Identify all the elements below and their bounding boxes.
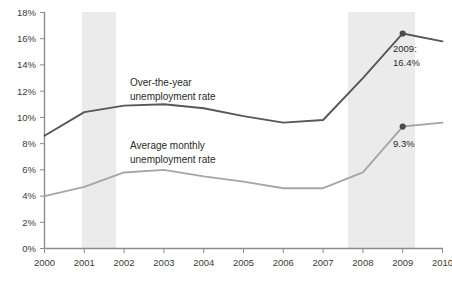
series-label-average-monthly: Average monthly unemployment rate xyxy=(130,140,216,165)
y-tick-label: 0% xyxy=(22,243,36,254)
x-tick-label: 2010 xyxy=(432,257,452,268)
x-tick-label: 2003 xyxy=(153,257,174,268)
series-label-line-1: Average monthly xyxy=(130,140,205,151)
annotation-line-1: 2009: xyxy=(393,43,417,54)
x-tick-label: 2000 xyxy=(34,257,55,268)
y-tick-label: 12% xyxy=(17,86,37,97)
y-tick-label: 6% xyxy=(22,164,36,175)
series-label-line-2: unemployment rate xyxy=(130,154,216,165)
y-tick-label: 14% xyxy=(17,59,37,70)
y-tick-label: 8% xyxy=(22,138,36,149)
x-tick-label: 2006 xyxy=(273,257,294,268)
y-tick-label: 4% xyxy=(22,190,36,201)
series-label-over-the-year: Over-the-year unemployment rate xyxy=(130,77,216,102)
series-label-line-2: unemployment rate xyxy=(130,91,216,102)
x-tick-label: 2004 xyxy=(193,257,214,268)
x-tick-label: 2008 xyxy=(352,257,373,268)
chart-canvas: 0% 2% 4% 6% 8% 10% 12% 14% 16% 18% xyxy=(0,0,452,283)
recession-band-2001 xyxy=(82,12,116,248)
y-tick-label: 10% xyxy=(17,112,37,123)
annotation-line-1: 9.3% xyxy=(393,138,415,149)
x-tick-label: 2005 xyxy=(233,257,254,268)
unemployment-rate-chart: 0% 2% 4% 6% 8% 10% 12% 14% 16% 18% xyxy=(0,0,452,283)
series-label-line-1: Over-the-year xyxy=(130,77,192,88)
y-tick-label: 16% xyxy=(17,33,37,44)
x-tick-label: 2009 xyxy=(392,257,413,268)
shaded-band-group xyxy=(82,12,415,248)
data-point-marker-2009-over-the-year xyxy=(400,30,406,36)
y-tick-label: 18% xyxy=(17,7,37,18)
y-axis-tick-labels: 0% 2% 4% 6% 8% 10% 12% 14% 16% 18% xyxy=(17,7,37,254)
x-tick-label: 2007 xyxy=(313,257,334,268)
x-tick-label: 2002 xyxy=(114,257,135,268)
annotation-2009-average-monthly: 9.3% xyxy=(393,138,415,149)
y-tick-label: 2% xyxy=(22,217,36,228)
annotation-line-2: 16.4% xyxy=(393,57,420,68)
x-axis-tick-labels: 2000 2001 2002 2003 2004 2005 2006 2007 … xyxy=(34,257,452,268)
x-tick-label: 2001 xyxy=(74,257,95,268)
data-point-marker-2009-average-monthly xyxy=(400,123,406,129)
